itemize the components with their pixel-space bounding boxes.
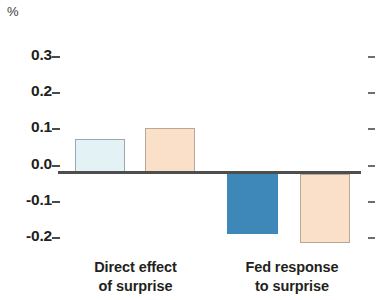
zero-axis-line (58, 171, 361, 174)
y-tick-label-3: 0.0 (6, 155, 52, 173)
bar-chart: % 0.3 0.2 0.1 0.0 -0.1 -0.2 Direct effec… (0, 0, 378, 300)
category-label-direct-effect: Direct effect of surprise (73, 258, 198, 296)
y-tick-label-0: 0.3 (6, 46, 52, 64)
bar-direct-effect-series-1 (75, 139, 125, 172)
category-label-direct-effect-line1: Direct effect (94, 259, 177, 275)
y-tick-label-2: 0.1 (6, 118, 52, 136)
bar-fed-response-series-2 (300, 174, 350, 243)
y-tick-mark-right-0 (368, 56, 375, 58)
y-tick-mark-right-4 (368, 201, 375, 203)
y-tick-label-1: 0.2 (6, 82, 52, 100)
y-tick-label-4: -0.1 (6, 191, 52, 209)
bar-fed-response-series-1 (227, 174, 278, 234)
y-tick-mark-right-1 (368, 92, 375, 94)
bar-direct-effect-series-2 (145, 128, 195, 172)
category-label-fed-response-line2: to surprise (227, 277, 357, 296)
plot-area (58, 18, 358, 250)
y-tick-mark-right-3 (368, 165, 375, 167)
unit-label: % (7, 4, 19, 19)
y-tick-mark-right-5 (368, 237, 375, 239)
category-label-fed-response: Fed response to surprise (227, 258, 357, 296)
y-tick-label-5: -0.2 (6, 227, 52, 245)
category-label-fed-response-line1: Fed response (245, 259, 338, 275)
category-label-direct-effect-line2: of surprise (73, 277, 198, 296)
y-tick-mark-right-2 (368, 128, 375, 130)
